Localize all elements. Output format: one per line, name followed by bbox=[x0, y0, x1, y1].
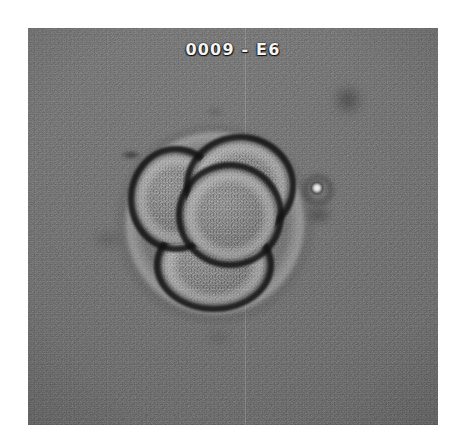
blastomere-center bbox=[176, 162, 284, 268]
embryo bbox=[120, 126, 310, 322]
micrograph-frame: 0009 - E6 bbox=[28, 28, 438, 425]
blastomere-center-rim bbox=[176, 162, 284, 268]
page-root: 0009 - E6 bbox=[0, 0, 457, 442]
